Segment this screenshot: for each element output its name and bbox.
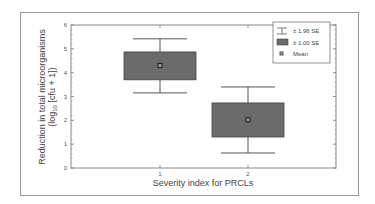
box-plot-chart: 0123456 12 Severity index for PRCLs Redu… [0,0,375,204]
y-axis-title-line1: Reduction in total microorganisms [37,29,47,165]
y-tick-label: 3 [64,94,68,100]
legend-mean-icon [280,52,283,55]
y-tick-label: 6 [64,22,68,28]
legend-label-100se: ± 1.00 SE [293,40,319,46]
y-tick-label: 1 [64,141,68,147]
x-tick-label: 2 [246,171,250,177]
y-tick-label: 2 [64,117,68,123]
box-series [124,39,284,153]
x-axis-ticks: 12 [158,25,250,177]
y-tick-label: 0 [64,165,68,171]
legend-box-icon [277,39,288,45]
y-tick-label: 5 [64,46,68,52]
legend-label-196se: ± 1.96 SE [293,28,319,34]
mean-marker [158,64,162,68]
mean-marker [246,118,250,122]
y-axis-title-line2: (log10 [cfu + 1]) [47,67,58,126]
legend: ± 1.96 SE ± 1.00 SE Mean [273,22,330,63]
x-axis-title: Severity index for PRCLs [153,178,254,188]
y-tick-label: 4 [64,70,68,76]
legend-label-mean: Mean [293,51,308,57]
box-category-1 [124,39,196,93]
x-tick-label: 1 [158,171,162,177]
box-category-2 [212,87,284,153]
